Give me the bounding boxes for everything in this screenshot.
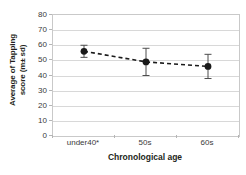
x-axis-tick-labels: under40*50s60s xyxy=(52,138,238,152)
y-axis-tick-label: 30 xyxy=(30,85,50,94)
data-point-marker xyxy=(205,63,212,70)
x-axis-title: Chronological age xyxy=(52,152,238,162)
y-axis-tick-label: 50 xyxy=(30,55,50,64)
tapping-score-chart: score (m± sd) Average of Tapping 0102030… xyxy=(0,0,246,175)
data-series-layer xyxy=(53,15,239,136)
y-axis-tick-label: 0 xyxy=(30,131,50,140)
x-axis-tick-label: 50s xyxy=(139,138,152,147)
x-axis-tick-mark xyxy=(114,135,115,138)
y-axis-tick-labels: 01020304050607080 xyxy=(30,0,50,175)
data-point-marker xyxy=(81,48,88,55)
y-axis-tick-label: 60 xyxy=(30,40,50,49)
y-axis-tick-label: 40 xyxy=(30,70,50,79)
y-axis-tick-label: 80 xyxy=(30,10,50,19)
x-axis-tick-mark xyxy=(176,135,177,138)
x-axis-tick-mark xyxy=(52,135,53,138)
plot-area xyxy=(52,14,240,137)
x-axis-tick-label: under40* xyxy=(67,138,99,147)
x-axis-tick-label: 60s xyxy=(201,138,214,147)
data-point-marker xyxy=(143,58,150,65)
y-axis-title-line2: score (m± sd) xyxy=(18,45,28,96)
y-axis-tick-label: 70 xyxy=(30,25,50,34)
y-axis-title-line1: Average of Tapping xyxy=(8,34,18,106)
y-axis-tick-label: 10 xyxy=(30,115,50,124)
x-axis-tick-mark xyxy=(238,135,239,138)
y-axis-tick-label: 20 xyxy=(30,100,50,109)
